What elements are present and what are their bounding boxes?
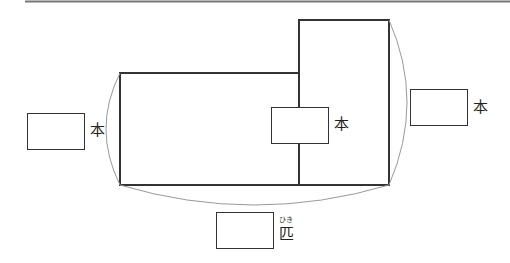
right-brace-arc <box>389 20 407 185</box>
unit-label-left: 本 <box>90 123 105 138</box>
left-brace-arc <box>106 73 120 185</box>
unit-label-right: 本 <box>473 100 488 115</box>
answer-box-right[interactable] <box>410 89 468 126</box>
unit-reading-bottom: ひき <box>279 217 293 224</box>
answer-box-left[interactable] <box>27 113 85 150</box>
right-rectangle <box>299 20 389 185</box>
unit-label-middle: 本 <box>334 117 349 132</box>
bottom-brace-arc <box>120 185 389 205</box>
answer-box-middle[interactable] <box>271 107 329 144</box>
unit-label-bottom: 匹 <box>279 227 294 242</box>
answer-box-bottom[interactable] <box>216 212 274 249</box>
